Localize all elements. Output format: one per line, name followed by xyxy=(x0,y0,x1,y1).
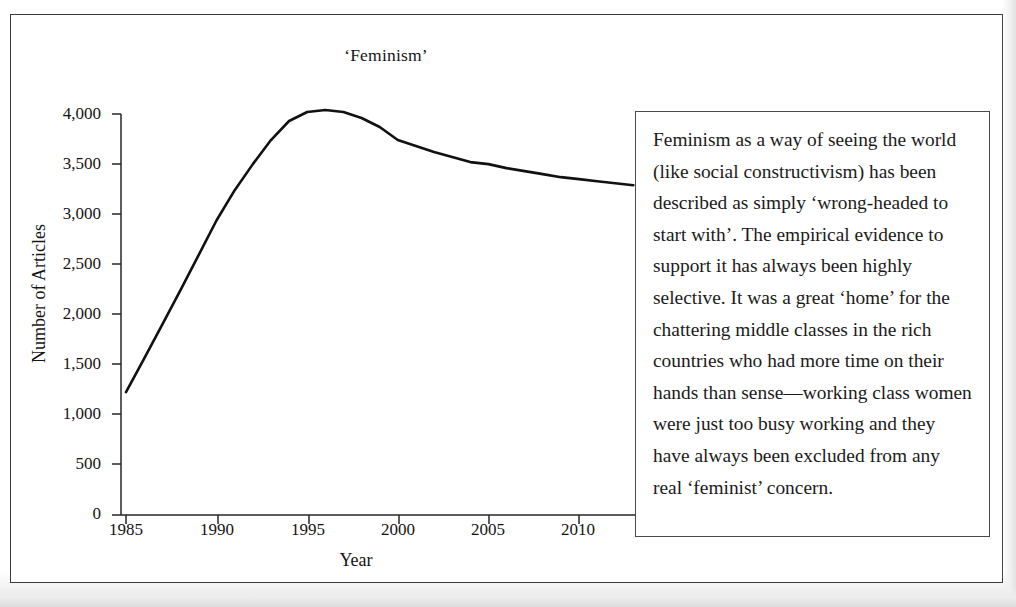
scanned-page: ‘Feminism’ 4,000 3,500 3,000 2,500 2,000… xyxy=(0,0,1016,607)
page-edge-bottom xyxy=(0,585,1016,607)
data-series-line xyxy=(126,110,633,392)
x-tick-label-2010: 2010 xyxy=(538,520,618,540)
line-chart-plot: 4,000 3,500 3,000 2,500 2,000 1,500 1,00… xyxy=(11,15,671,595)
annotation-text: Feminism as a way of seeing the world (l… xyxy=(653,124,973,503)
page-edge-right xyxy=(1002,0,1016,607)
x-tick-label-1985: 1985 xyxy=(86,520,166,540)
y-axis-label: Number of Articles xyxy=(29,204,50,384)
y-tick-label-3500: 3,500 xyxy=(21,154,101,174)
y-tick-label-1000: 1,000 xyxy=(21,404,101,424)
x-tick-label-2000: 2000 xyxy=(358,520,438,540)
x-axis-label: Year xyxy=(126,550,586,571)
x-tick-label-1995: 1995 xyxy=(268,520,348,540)
chart-svg xyxy=(11,15,671,595)
annotation-box: Feminism as a way of seeing the world (l… xyxy=(635,111,990,537)
y-tick-marks xyxy=(112,114,121,515)
y-tick-label-4000: 4,000 xyxy=(21,104,101,124)
x-tick-label-2005: 2005 xyxy=(448,520,528,540)
figure-frame: ‘Feminism’ 4,000 3,500 3,000 2,500 2,000… xyxy=(10,14,1003,583)
x-tick-label-1990: 1990 xyxy=(177,520,257,540)
y-tick-label-500: 500 xyxy=(21,454,101,474)
